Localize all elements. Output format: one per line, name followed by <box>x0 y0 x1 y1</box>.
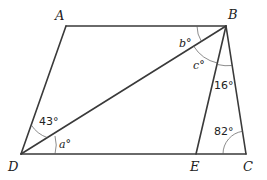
vertex-label-d: D <box>7 159 19 174</box>
angle-label-bdc: a° <box>59 138 71 151</box>
segment-da <box>21 26 66 154</box>
angle-label-dbe: c° <box>193 59 205 72</box>
angle-label-bce: 82° <box>214 125 234 138</box>
angle-label-ebc: 16° <box>214 79 234 92</box>
angle-arc-ebc <box>218 65 232 66</box>
vertex-label-a: A <box>54 8 64 23</box>
vertex-label-e: E <box>189 159 200 174</box>
vertex-label-c: C <box>243 159 253 174</box>
segment-db <box>21 26 226 154</box>
angle-label-adb: 43° <box>39 115 59 128</box>
angle-arc-abd <box>197 26 201 41</box>
vertex-label-b: B <box>227 7 238 22</box>
angle-label-abd: b° <box>179 37 192 50</box>
angle-arc-bdc <box>55 136 56 154</box>
geometry-diagram: A B C D E 43° a° b° c° 16° 82° <box>0 0 267 180</box>
